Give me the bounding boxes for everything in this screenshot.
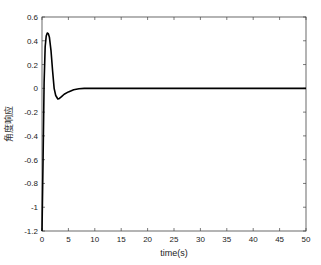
x-tick-label: 10 xyxy=(90,235,99,244)
x-tick-label: 0 xyxy=(40,235,45,244)
x-axis-label: time(s) xyxy=(160,248,188,258)
x-tick-label: 35 xyxy=(222,235,231,244)
series-lines xyxy=(42,33,306,231)
series-line xyxy=(42,33,306,231)
line-chart: 051015202530354045500.60.40.20-0.2-0.4-0… xyxy=(0,0,321,265)
ticks: 051015202530354045500.60.40.20-0.2-0.4-0… xyxy=(24,13,311,244)
y-tick-label: 0 xyxy=(34,84,39,93)
y-axis-label: 角度响应 xyxy=(3,106,14,142)
y-tick-label: 0.2 xyxy=(27,61,39,70)
x-tick-label: 15 xyxy=(117,235,126,244)
y-tick-label: -0.8 xyxy=(24,179,38,188)
x-tick-label: 25 xyxy=(170,235,179,244)
x-tick-label: 5 xyxy=(66,235,71,244)
x-tick-label: 40 xyxy=(249,235,258,244)
y-tick-label: -0.2 xyxy=(24,108,38,117)
y-tick-label: 0.6 xyxy=(27,13,39,22)
x-tick-label: 20 xyxy=(143,235,152,244)
plot-frame xyxy=(42,17,306,231)
y-tick-label: -1.2 xyxy=(24,227,38,236)
y-tick-label: -0.6 xyxy=(24,156,38,165)
y-tick-label: 0.4 xyxy=(27,37,39,46)
x-tick-label: 45 xyxy=(275,235,284,244)
x-tick-label: 50 xyxy=(302,235,311,244)
y-tick-label: -0.4 xyxy=(24,132,38,141)
x-tick-label: 30 xyxy=(196,235,205,244)
y-tick-label: -1 xyxy=(31,203,39,212)
axes xyxy=(42,17,306,231)
